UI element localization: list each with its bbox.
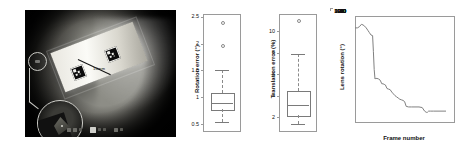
record-icon[interactable] (90, 127, 96, 133)
axis-tick-mark (201, 44, 204, 45)
x-tick-label: 500 (330, 8, 348, 14)
axis-tick-mark (277, 74, 280, 75)
lens-rotation-xlabel: Frame number (355, 135, 453, 141)
boxplot-whisker-upper (222, 70, 223, 93)
boxplot-median (287, 105, 308, 106)
step-icon[interactable] (79, 128, 82, 131)
boxplot-cap-lower (291, 124, 305, 125)
grid-icon[interactable] (103, 128, 106, 131)
y-tick-label: 2 (185, 40, 199, 46)
marker-icon[interactable] (98, 128, 101, 131)
axis-tick-mark (201, 70, 204, 71)
play-icon[interactable] (67, 128, 71, 132)
axis-tick-mark (277, 96, 280, 97)
lens-rotation-ylabel: Lens rotation (°) (339, 31, 345, 103)
boxplot-median (211, 103, 232, 104)
boxplot-whisker-lower (222, 109, 223, 122)
lens-rotation-polyline (355, 24, 446, 112)
video-toolbar[interactable] (67, 125, 133, 134)
axis-tick-mark (277, 53, 280, 54)
lens-rotation-series (355, 16, 453, 121)
y-tick-label: 2 (261, 114, 275, 120)
boxplot-whisker-lower (298, 115, 299, 125)
callout-leader-line (29, 68, 30, 102)
boxplot-outlier (221, 21, 225, 25)
y-tick-label: 1.5 (185, 67, 199, 73)
region-of-interest-circle (28, 52, 47, 71)
axis-tick-mark (277, 31, 280, 32)
translation-error-boxplot: Translation error (%) 246810 (255, 8, 327, 148)
y-tick-label: 8 (261, 49, 275, 55)
y-tick-label: 10 (261, 28, 275, 34)
y-tick-label: 4 (261, 92, 275, 98)
boxplot-cap-upper (215, 70, 229, 71)
y-tick-label: 2.5 (185, 13, 199, 19)
settings-icon[interactable] (120, 128, 123, 131)
boxplot-whisker-upper (298, 54, 299, 92)
zoom-icon[interactable] (114, 128, 118, 132)
y-tick-label: 0.5 (185, 121, 199, 127)
axis-tick-mark (277, 117, 280, 118)
lens-rotation-line-chart: Lens rotation (°) Frame number -80-60-40… (330, 8, 466, 150)
axis-tick-mark (201, 97, 204, 98)
endoscope-calibration-photo: 10mm (25, 10, 176, 137)
y-tick-label: 6 (261, 71, 275, 77)
rotation-error-boxplot: Rotation error (°) 0.511.522.5 (181, 8, 253, 148)
figure-canvas: 10mm Rotation error (°) 0.511.522.5 (0, 0, 467, 155)
axis-tick-mark (201, 17, 204, 18)
boxplot-box (287, 91, 310, 117)
boxplot-cap-upper (291, 54, 305, 55)
boxplot-cap-lower (215, 122, 229, 123)
axis-tick-mark (201, 124, 204, 125)
inset-highlight-dot (61, 125, 63, 127)
scale-bar-label: 10mm (93, 66, 105, 71)
stop-icon[interactable] (73, 128, 77, 132)
y-tick-label: 1 (185, 94, 199, 100)
